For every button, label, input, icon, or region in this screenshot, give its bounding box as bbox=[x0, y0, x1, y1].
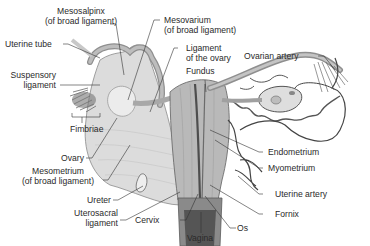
label-uterine-artery: Uterine artery bbox=[275, 189, 327, 199]
label-uterosacral-ligament: Uterosacral ligament bbox=[40, 208, 118, 228]
label-ureter: Ureter bbox=[60, 195, 111, 205]
label-cervix: Cervix bbox=[135, 215, 159, 225]
label-ovarian-artery: Ovarian artery bbox=[244, 51, 298, 61]
label-ligament-of-ovary: Ligament of the ovary bbox=[186, 43, 231, 63]
label-myometrium: Myometrium bbox=[268, 163, 315, 173]
label-uterine-tube: Uterine tube bbox=[5, 39, 52, 49]
label-os: Os bbox=[237, 223, 248, 233]
label-suspensory-ligament: Suspensory ligament bbox=[4, 70, 56, 90]
label-fornix: Fornix bbox=[275, 209, 299, 219]
label-mesosalpinx: Mesosalpinx (of broad ligament) bbox=[38, 6, 124, 26]
label-mesovarium: Mesovarium (of broad ligament) bbox=[164, 15, 236, 35]
uterine-artery bbox=[228, 120, 262, 190]
anatomy-diagram: Mesosalpinx (of broad ligament) Mesovari… bbox=[0, 0, 370, 246]
label-fundus: Fundus bbox=[186, 66, 215, 76]
label-fimbriae: Fimbriae bbox=[70, 124, 103, 134]
label-endometrium: Endometrium bbox=[268, 147, 319, 157]
label-mesometrium: Mesometrium (of broad ligament) bbox=[14, 166, 102, 186]
label-ovary: Ovary bbox=[40, 153, 84, 163]
ovary-left bbox=[108, 86, 136, 116]
label-vagina: Vagina bbox=[187, 233, 213, 243]
